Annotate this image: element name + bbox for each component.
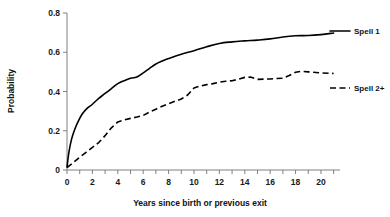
- y-tick-label: 0: [55, 165, 60, 175]
- series-line-spell-2: [67, 71, 334, 167]
- x-tick-label: 12: [215, 177, 225, 187]
- x-axis-title: Years since birth or previous exit: [133, 198, 267, 208]
- y-tick-label: 0.4: [48, 87, 60, 97]
- y-tick-marks: [63, 13, 67, 170]
- chart-svg: 00.20.40.60.8 02468101214161820 Spell 1 …: [0, 0, 390, 217]
- x-tick-label: 18: [291, 177, 301, 187]
- x-tick-label: 10: [189, 177, 199, 187]
- y-tick-labels: 00.20.40.60.8: [48, 8, 60, 175]
- x-tick-label: 16: [265, 177, 275, 187]
- x-axis: 02468101214161820: [65, 170, 340, 187]
- x-tick-label: 2: [90, 177, 95, 187]
- y-tick-label: 0.8: [48, 8, 60, 18]
- data-series-group: [67, 33, 334, 168]
- y-tick-label: 0.2: [48, 126, 60, 136]
- series-line-spell-1: [67, 33, 334, 167]
- x-tick-label: 20: [316, 177, 326, 187]
- legend: Spell 1 Spell 2+: [330, 27, 385, 93]
- legend-label-spell-2plus: Spell 2+: [354, 84, 385, 93]
- legend-label-spell-1: Spell 1: [354, 27, 380, 36]
- x-tick-label: 0: [65, 177, 70, 187]
- y-axis-title: Probability: [6, 69, 16, 113]
- x-tick-marks: [67, 170, 334, 174]
- x-tick-label: 14: [240, 177, 250, 187]
- x-tick-label: 4: [115, 177, 120, 187]
- x-tick-labels: 02468101214161820: [65, 177, 326, 187]
- probability-line-chart: 00.20.40.60.8 02468101214161820 Spell 1 …: [0, 0, 390, 217]
- y-axis: 00.20.40.60.8: [48, 8, 67, 175]
- x-tick-label: 6: [141, 177, 146, 187]
- x-tick-label: 8: [166, 177, 171, 187]
- y-tick-label: 0.6: [48, 47, 60, 57]
